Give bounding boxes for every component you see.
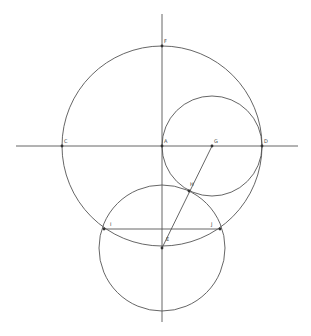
segment-GE: [162, 146, 212, 248]
point-H: H: [188, 181, 194, 192]
point-label: D: [264, 138, 268, 144]
point-marker: [188, 190, 191, 193]
point-label: H: [190, 181, 194, 187]
point-label: A: [164, 138, 168, 144]
point-label: I: [110, 221, 111, 227]
point-marker: [261, 145, 264, 148]
point-marker: [161, 45, 164, 48]
point-label: E: [166, 236, 169, 242]
point-marker: [103, 228, 106, 231]
point-marker: [161, 247, 164, 250]
point-label: G: [214, 138, 218, 144]
point-label: J: [210, 221, 212, 227]
point-marker: [211, 145, 214, 148]
point-label: F: [164, 38, 167, 44]
point-marker: [61, 145, 64, 148]
point-marker: [161, 145, 164, 148]
point-label: C: [64, 138, 68, 144]
geometry-diagram: FCAGDHIJE: [0, 0, 311, 336]
point-marker: [219, 228, 222, 231]
